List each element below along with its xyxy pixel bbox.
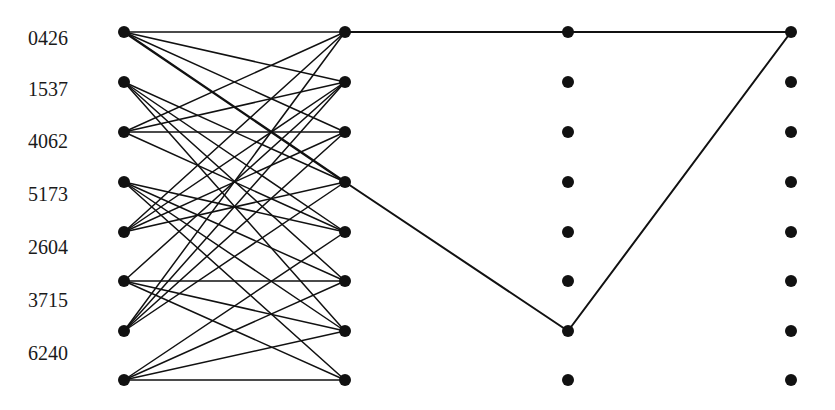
node — [339, 126, 351, 138]
node — [785, 26, 797, 38]
node — [118, 26, 130, 38]
node — [339, 374, 351, 386]
node — [562, 325, 574, 337]
node — [118, 176, 130, 188]
path-edge — [345, 182, 568, 331]
node — [118, 325, 130, 337]
row-label-1: 1537 — [28, 79, 98, 99]
edge — [124, 132, 345, 331]
node — [562, 275, 574, 287]
node — [785, 275, 797, 287]
edge — [124, 32, 345, 331]
edge — [124, 32, 345, 82]
node — [118, 76, 130, 88]
node — [785, 76, 797, 88]
node — [785, 176, 797, 188]
row-label-5: 3715 — [28, 290, 98, 310]
node — [785, 126, 797, 138]
edge — [124, 331, 345, 380]
node — [562, 374, 574, 386]
node — [785, 325, 797, 337]
path-edge — [568, 32, 791, 331]
node — [339, 325, 351, 337]
graph-diagram: 0426 1537 4062 5173 2604 3715 6240 — [0, 0, 835, 410]
node — [118, 275, 130, 287]
row-label-0: 0426 — [28, 28, 98, 48]
edge — [124, 82, 345, 132]
node — [118, 374, 130, 386]
row-label-3: 5173 — [28, 184, 98, 204]
node — [118, 226, 130, 238]
row-label-4: 2604 — [28, 237, 98, 257]
node — [339, 26, 351, 38]
row-label-2: 4062 — [28, 131, 98, 151]
node — [785, 374, 797, 386]
node — [562, 26, 574, 38]
node — [785, 226, 797, 238]
node — [339, 76, 351, 88]
node — [562, 226, 574, 238]
node — [339, 275, 351, 287]
node — [562, 176, 574, 188]
graph-canvas — [0, 0, 835, 410]
node — [562, 76, 574, 88]
edge — [124, 232, 345, 380]
node — [118, 126, 130, 138]
node — [339, 176, 351, 188]
node — [562, 126, 574, 138]
row-label-6: 6240 — [28, 343, 98, 363]
node — [339, 226, 351, 238]
